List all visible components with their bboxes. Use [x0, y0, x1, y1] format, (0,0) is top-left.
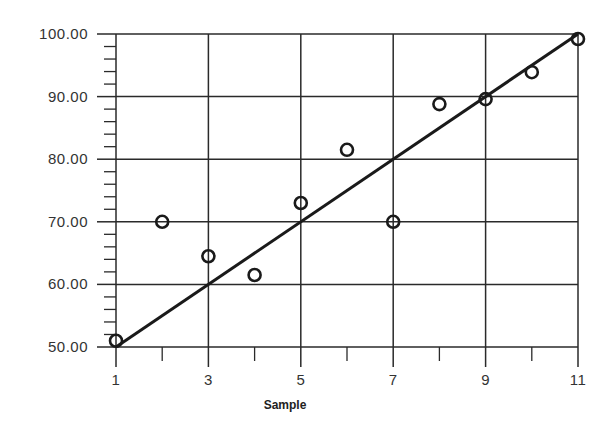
x-tick-label: 7 — [389, 371, 398, 388]
x-tick-label: 5 — [296, 371, 305, 388]
data-point-marker — [526, 66, 538, 78]
x-axis-tick-labels: 1357911 — [112, 371, 587, 388]
y-axis-ticks — [97, 34, 116, 347]
data-point-marker — [249, 269, 261, 281]
trend-line — [116, 34, 578, 347]
y-tick-label: 50.00 — [48, 338, 88, 355]
y-tick-label: 80.00 — [48, 150, 88, 167]
x-tick-label: 3 — [204, 371, 213, 388]
y-tick-label: 60.00 — [48, 275, 88, 292]
x-axis-title: Sample — [264, 398, 307, 412]
x-tick-label: 1 — [112, 371, 121, 388]
scatter-chart: 50.0060.0070.0080.0090.00100.00 1357911 … — [0, 0, 614, 427]
y-tick-label: 100.00 — [39, 25, 88, 42]
x-tick-label: 9 — [481, 371, 490, 388]
x-axis-ticks — [116, 347, 578, 367]
data-point-marker — [433, 98, 445, 110]
y-tick-label: 70.00 — [48, 213, 88, 230]
y-tick-label: 90.00 — [48, 88, 88, 105]
y-axis-tick-labels: 50.0060.0070.0080.0090.00100.00 — [39, 25, 88, 355]
data-point-marker — [341, 144, 353, 156]
trend-line-segment — [116, 34, 578, 347]
x-tick-label: 11 — [570, 371, 587, 388]
